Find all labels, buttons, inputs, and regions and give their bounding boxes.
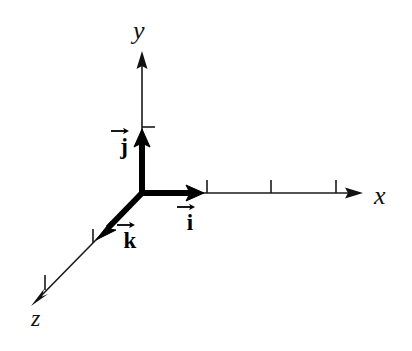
figure-canvas: y x z i j k	[0, 0, 412, 351]
vector-i-letter: i	[176, 211, 204, 234]
vector-j-label: j	[110, 126, 138, 158]
axes-diagram	[0, 0, 412, 351]
axis-arrowheads	[31, 51, 363, 306]
vector-accent-arrow-icon	[176, 202, 204, 210]
vector-i-label: i	[176, 202, 204, 234]
z-axis-label: z	[31, 306, 40, 330]
vector-accent-arrow-icon	[110, 126, 138, 134]
y-axis-label: y	[133, 18, 145, 44]
vector-j-letter: j	[110, 135, 138, 158]
axis-lines	[38, 60, 356, 299]
vector-k-letter: k	[116, 229, 144, 252]
vector-k-label: k	[116, 220, 144, 252]
x-axis-label: x	[374, 183, 386, 209]
vector-accent-arrow-icon	[116, 220, 144, 228]
